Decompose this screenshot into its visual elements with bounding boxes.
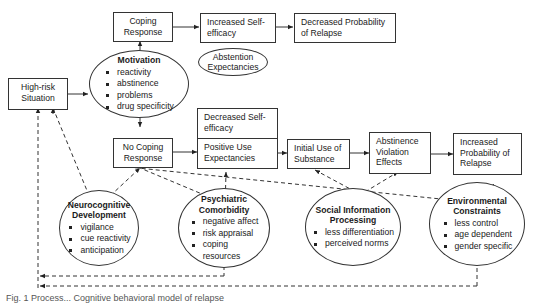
list-item: drug specificity xyxy=(104,101,174,113)
list-item: perceived norms xyxy=(312,238,394,250)
node-label: Increased Probability of Relapse xyxy=(460,137,510,168)
social-list: less differentiation perceived norms xyxy=(312,227,394,250)
neurocognitive-title: Neurocognitive Development xyxy=(60,200,138,221)
node-social-information-processing: Social Information Processing less diffe… xyxy=(305,188,401,266)
list-item: vigilance xyxy=(67,222,130,234)
node-environmental-constraints: Environmental Constraints less control a… xyxy=(429,182,525,266)
node-label: Positive Use Expectancies xyxy=(204,142,255,163)
social-title: Social Information Processing xyxy=(311,205,395,226)
list-item: anticipation xyxy=(67,245,130,257)
node-label: High-risk Situation xyxy=(21,82,55,103)
node-decreased-probability-relapse: Decreased Probability of Relapse xyxy=(294,13,396,43)
node-increased-self-efficacy: Increased Self-efficacy xyxy=(200,13,276,43)
list-item: less differentiation xyxy=(312,227,394,239)
node-label: Increased Self-efficacy xyxy=(207,17,265,38)
motivation-list: reactivity abstinence problems drug spec… xyxy=(104,67,174,113)
node-abstinence-violation-effects: Abstinence Violation Effects xyxy=(369,132,431,174)
node-increased-probability-relapse: Increased Probability of Relapse xyxy=(453,133,522,175)
list-item: age dependent xyxy=(442,229,513,241)
list-item: gender specific xyxy=(442,241,513,253)
list-item: risk appraisal xyxy=(190,228,259,240)
node-label: Decreased Probability of Relapse xyxy=(301,17,385,38)
node-motivation: Motivation reactivity abstinence problem… xyxy=(89,50,189,118)
node-label: Abstention Expectancies xyxy=(199,52,267,73)
list-item: less control xyxy=(442,218,513,230)
node-no-coping-response: No Coping Response xyxy=(113,138,173,168)
node-initial-use-substance: Initial Use of Substance xyxy=(287,139,350,169)
list-item: abstinence xyxy=(104,78,174,90)
psychiatric-list: negative affect risk appraisal coping re… xyxy=(190,216,259,262)
node-label: Initial Use of Substance xyxy=(294,143,341,164)
neurocognitive-list: vigilance cue reactivity anticipation xyxy=(67,222,130,257)
node-label: Abstinence Violation Effects xyxy=(376,136,419,167)
list-item: negative affect xyxy=(190,216,259,228)
list-item: cue reactivity xyxy=(67,233,130,245)
list-item: reactivity xyxy=(104,67,174,79)
node-label: Decreased Self-efficacy xyxy=(204,112,266,133)
list-item: coping resources xyxy=(190,239,249,262)
environmental-list: less control age dependent gender specif… xyxy=(442,218,513,253)
psychiatric-title: Psychiatric Comorbidity xyxy=(179,194,269,215)
node-neurocognitive-development: Neurocognitive Development vigilance cue… xyxy=(59,190,139,266)
motivation-title: Motivation xyxy=(118,55,161,66)
node-decreased-self-efficacy: Decreased Self-efficacy xyxy=(197,108,278,139)
node-abstention-expectancies: Abstention Expectancies xyxy=(198,48,268,76)
node-high-risk-situation: High-risk Situation xyxy=(8,78,68,110)
list-item: problems xyxy=(104,90,174,102)
environmental-title: Environmental Constraints xyxy=(442,196,512,217)
node-coping-response: Coping Response xyxy=(113,12,173,42)
figure-caption: Fig. 1 Process... Cognitive behavioral m… xyxy=(6,293,224,303)
node-label: No Coping Response xyxy=(123,142,164,163)
node-label: Coping Response xyxy=(124,16,163,37)
node-positive-use-expectancies: Positive Use Expectancies xyxy=(197,138,278,169)
node-psychiatric-comorbidity: Psychiatric Comorbidity negative affect … xyxy=(178,188,270,268)
